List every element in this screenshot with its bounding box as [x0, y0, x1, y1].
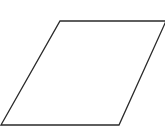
parallelogram-shape: [1, 21, 165, 125]
diagram-canvas: [0, 0, 165, 140]
